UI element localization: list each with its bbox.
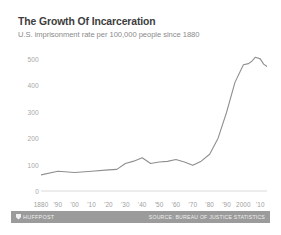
x-axis-tick-label: '90 (222, 201, 231, 208)
y-axis-tick-label: 500 (13, 55, 39, 62)
y-axis-tick-label: 100 (13, 161, 39, 168)
y-axis-tick-label: 400 (13, 82, 39, 89)
data-series-line (41, 57, 267, 175)
brand-label: HUFFPOST (23, 214, 54, 220)
shield-icon (16, 214, 21, 220)
x-axis-tick-label: '40 (138, 201, 147, 208)
x-axis-tick-label: '30 (121, 201, 130, 208)
chart-line-area (41, 43, 267, 201)
source-credit: SOURCE: BUREAU OF JUSTICE STATISTICS (149, 214, 265, 220)
y-axis-tick-label: 0 (13, 188, 39, 195)
x-axis-tick-label: '20 (104, 201, 113, 208)
chart-footer-bar: HUFFPOST SOURCE: BUREAU OF JUSTICE STATI… (11, 211, 270, 223)
y-axis-tick-label: 300 (13, 108, 39, 115)
chart-card: The Growth Of Incarceration U.S. impriso… (11, 11, 270, 223)
chart-page: The Growth Of Incarceration U.S. impriso… (0, 0, 281, 235)
x-axis-tick-label: 2000 (236, 201, 251, 208)
chart-subtitle: U.S. imprisonment rate per 100,000 peopl… (18, 30, 199, 39)
brand-logo: HUFFPOST (16, 214, 54, 220)
x-axis-tick-label: '50 (155, 201, 164, 208)
chart-plot-area: 0100200300400500 (11, 43, 270, 201)
x-axis-tick-label: '80 (205, 201, 214, 208)
x-axis-tick-label: 1880 (34, 201, 49, 208)
page-title: The Growth Of Incarceration (18, 16, 156, 27)
y-axis-labels: 0100200300400500 (11, 43, 39, 201)
x-axis-tick-label: '90 (54, 201, 63, 208)
line-chart-svg (41, 43, 267, 201)
x-axis-tick-label: '10 (87, 201, 96, 208)
y-axis-tick-label: 200 (13, 135, 39, 142)
x-axis-tick-label: '00 (70, 201, 79, 208)
x-axis-tick-label: '60 (172, 201, 181, 208)
x-axis-tick-label: '10 (256, 201, 265, 208)
x-axis-tick-label: '70 (188, 201, 197, 208)
